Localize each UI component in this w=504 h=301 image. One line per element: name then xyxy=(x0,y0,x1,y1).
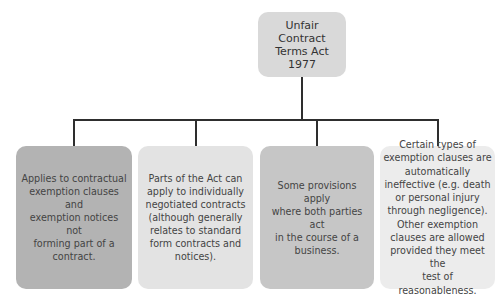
connector-root-stem xyxy=(301,77,303,119)
connector-child-1 xyxy=(73,119,75,146)
root-node-label: Unfair Contract Terms Act 1977 xyxy=(275,19,329,71)
connector-child-2 xyxy=(195,119,197,146)
child-node-3: Some provisions apply where both parties… xyxy=(260,146,374,289)
connector-child-3 xyxy=(316,119,318,146)
child-node-2-label: Parts of the Act can apply to individual… xyxy=(146,172,246,263)
child-node-2: Parts of the Act can apply to individual… xyxy=(138,146,253,289)
child-node-1-label: Applies to contractual exemption clauses… xyxy=(21,172,127,263)
root-node: Unfair Contract Terms Act 1977 xyxy=(258,12,346,77)
connector-horizontal-bar xyxy=(73,119,438,121)
child-node-4-label: Certain types of exemption clauses are a… xyxy=(383,138,492,296)
child-node-4: Certain types of exemption clauses are a… xyxy=(380,146,495,289)
child-node-3-label: Some provisions apply where both parties… xyxy=(265,179,369,257)
child-node-1: Applies to contractual exemption clauses… xyxy=(16,146,132,289)
